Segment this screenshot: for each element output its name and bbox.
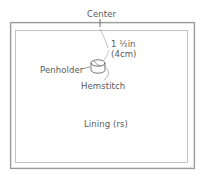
lining-panel-outline [16, 31, 188, 163]
measure-leader-line-lower [104, 50, 109, 60]
measurement-label: 1 ½in (4cm) [111, 39, 137, 59]
sewing-diagram: Center 1 ½in (4cm) Penholder Hemstitch L… [0, 0, 205, 177]
penholder-icon [91, 60, 105, 73]
penholder-label: Penholder [40, 65, 83, 75]
outer-panel-outline [11, 23, 195, 169]
measurement-metric: (4cm) [111, 49, 137, 59]
lining-label: Lining (rs) [84, 119, 128, 129]
center-label: Center [87, 9, 116, 19]
measure-leader-line [100, 29, 108, 48]
outer-panel-outline-shadow [12, 24, 194, 168]
measurement-imperial: 1 ½in [111, 39, 137, 49]
hemstitch-label: Hemstitch [81, 81, 125, 91]
